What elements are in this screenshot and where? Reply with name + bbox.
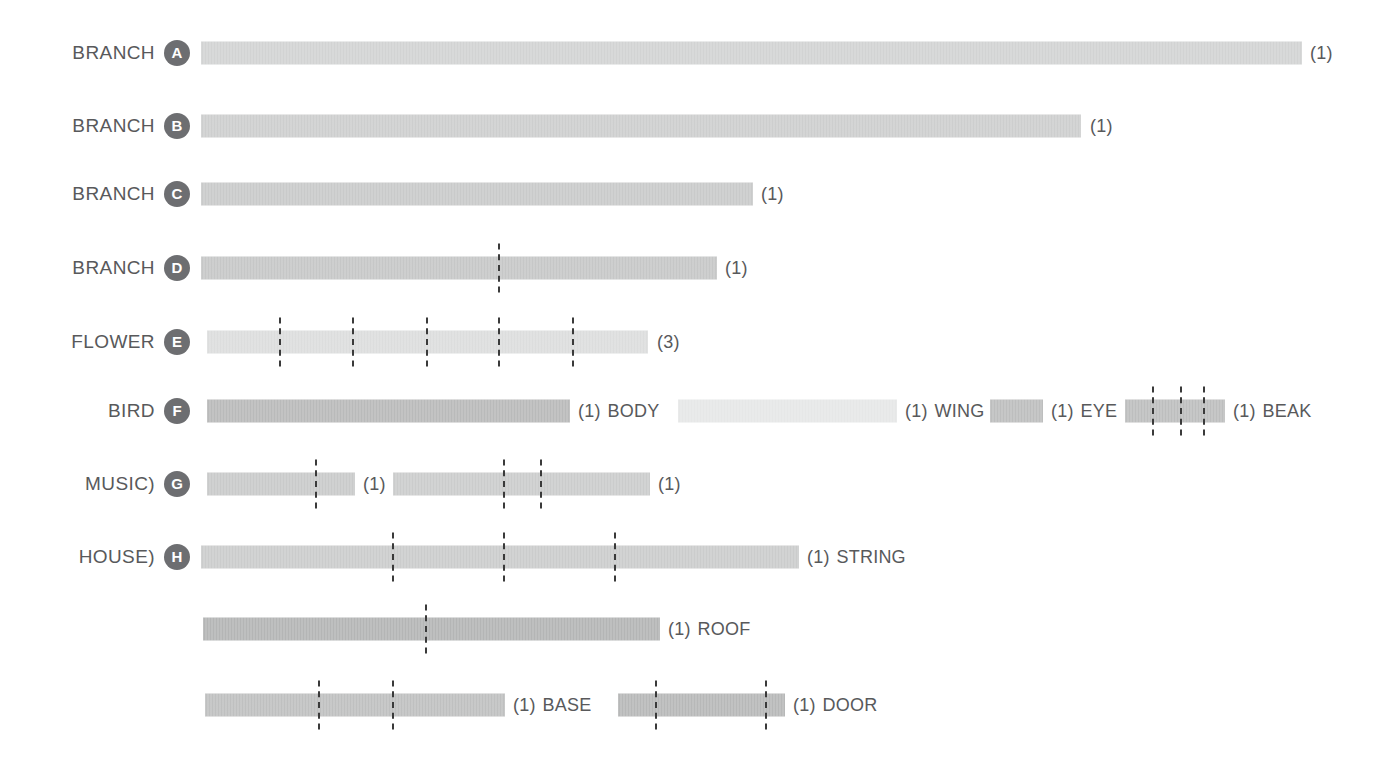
bar-branch-c[interactable] — [201, 183, 753, 206]
bar-branch-b[interactable] — [201, 115, 1081, 138]
segment-divider-dash — [503, 460, 505, 509]
segment-divider-dash — [765, 681, 767, 730]
bar-texture — [207, 400, 570, 423]
bar-count-value: (1) — [658, 474, 681, 494]
segment-divider-dash — [1180, 387, 1182, 436]
bar-count-value: (1) — [1310, 43, 1333, 63]
row-badge-e[interactable]: E — [164, 329, 190, 355]
diagram-row: FLOWERE(3) — [0, 316, 1392, 368]
bar-texture — [618, 694, 785, 717]
bar-texture — [990, 400, 1043, 423]
row-badge-c[interactable]: C — [164, 181, 190, 207]
row-label: BRANCH — [72, 257, 155, 279]
bar-count-label: (1)DOOR — [793, 695, 877, 716]
bar-house-string[interactable] — [201, 546, 799, 569]
bar-music-g-2[interactable] — [393, 473, 650, 496]
bar-texture — [207, 473, 355, 496]
diagram-row: BIRDF(1)BODY(1)WING(1)EYE(1)BEAK — [0, 385, 1392, 437]
bar-count-label: (1) — [761, 184, 784, 205]
bar-count-value: (1) — [793, 695, 816, 715]
bar-count-value: (1) — [1090, 116, 1113, 136]
bar-branch-d[interactable] — [201, 257, 717, 280]
row-badge-g[interactable]: G — [164, 471, 190, 497]
bar-part-name: BASE — [543, 695, 592, 715]
bar-texture — [205, 694, 505, 717]
bar-count-value: (1) — [1051, 401, 1074, 421]
segment-divider-dash — [315, 460, 317, 509]
diagram-canvas: BRANCHA(1)BRANCHB(1)BRANCHC(1)BRANCHD(1)… — [0, 0, 1392, 774]
bar-count-value: (1) — [807, 547, 830, 567]
bar-count-label: (1) — [1090, 116, 1113, 137]
segment-divider-dash — [1152, 387, 1154, 436]
diagram-row: (1)ROOF — [0, 603, 1392, 655]
segment-divider-dash — [392, 533, 394, 582]
diagram-row: BRANCHC(1) — [0, 168, 1392, 220]
segment-divider-dash — [655, 681, 657, 730]
segment-divider-dash — [572, 318, 574, 367]
bar-part-name: BODY — [608, 401, 660, 421]
diagram-row: HOUSE)H(1)STRING — [0, 531, 1392, 583]
bar-texture — [201, 183, 753, 206]
bar-count-value: (1) — [725, 258, 748, 278]
diagram-row: BRANCHB(1) — [0, 100, 1392, 152]
segment-divider-dash — [540, 460, 542, 509]
segment-divider-dash — [498, 244, 500, 293]
row-badge-b[interactable]: B — [164, 113, 190, 139]
bar-count-label: (1) — [658, 474, 681, 495]
bar-texture — [393, 473, 650, 496]
row-badge-f[interactable]: F — [164, 398, 190, 424]
bar-count-label: (3) — [657, 332, 680, 353]
segment-divider-dash — [498, 318, 500, 367]
segment-divider-dash — [318, 681, 320, 730]
row-badge-h[interactable]: H — [164, 544, 190, 570]
bar-count-value: (1) — [1233, 401, 1256, 421]
bar-count-label: (1) — [725, 258, 748, 279]
row-label: FLOWER — [71, 331, 155, 353]
bar-branch-a[interactable] — [201, 42, 1302, 65]
bar-texture — [1125, 400, 1225, 423]
bar-house-door[interactable] — [618, 694, 785, 717]
bar-part-name: ROOF — [698, 619, 751, 639]
segment-divider-dash — [352, 318, 354, 367]
segment-divider-dash — [426, 318, 428, 367]
row-badge-a[interactable]: A — [164, 40, 190, 66]
bar-count-value: (1) — [578, 401, 601, 421]
bar-texture — [201, 42, 1302, 65]
bar-count-value: (1) — [513, 695, 536, 715]
diagram-row: BRANCHA(1) — [0, 27, 1392, 79]
bar-part-name: EYE — [1081, 401, 1118, 421]
bar-count-value: (3) — [657, 332, 680, 352]
row-label: BRANCH — [72, 42, 155, 64]
bar-count-value: (1) — [668, 619, 691, 639]
bar-count-label: (1) — [1310, 43, 1333, 64]
bar-part-name: STRING — [837, 547, 906, 567]
row-badge-d[interactable]: D — [164, 255, 190, 281]
bar-house-base[interactable] — [205, 694, 505, 717]
bar-house-roof[interactable] — [203, 618, 660, 641]
bar-bird-body[interactable] — [207, 400, 570, 423]
row-label: BRANCH — [72, 115, 155, 137]
bar-count-value: (1) — [905, 401, 928, 421]
bar-part-name: WING — [935, 401, 985, 421]
segment-divider-dash — [425, 605, 427, 654]
bar-count-label: (1) — [363, 474, 386, 495]
bar-count-label: (1)BODY — [578, 401, 659, 422]
diagram-row: BRANCHD(1) — [0, 242, 1392, 294]
row-label: MUSIC) — [85, 473, 155, 495]
segment-divider-dash — [392, 681, 394, 730]
bar-texture — [678, 400, 897, 423]
bar-count-label: (1)BASE — [513, 695, 591, 716]
bar-bird-beak[interactable] — [1125, 400, 1225, 423]
bar-bird-wing[interactable] — [678, 400, 897, 423]
bar-bird-eye[interactable] — [990, 400, 1043, 423]
bar-count-label: (1)WING — [905, 401, 984, 422]
bar-texture — [201, 115, 1081, 138]
diagram-row: MUSIC)G(1)(1) — [0, 458, 1392, 510]
row-label: BIRD — [108, 400, 155, 422]
row-label: BRANCH — [72, 183, 155, 205]
bar-texture — [201, 257, 717, 280]
bar-texture — [203, 618, 660, 641]
bar-music-g-1[interactable] — [207, 473, 355, 496]
segment-divider-dash — [279, 318, 281, 367]
row-label: HOUSE) — [79, 546, 155, 568]
